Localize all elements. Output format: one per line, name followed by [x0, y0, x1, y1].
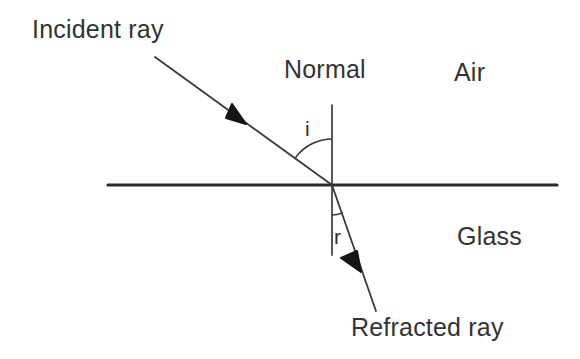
air-medium-label: Air	[454, 60, 485, 85]
incident-ray-arrowhead	[226, 104, 246, 124]
angle-of-incidence-label: i	[305, 118, 310, 139]
normal-label: Normal	[284, 57, 366, 82]
angle-of-refraction-label: r	[334, 226, 341, 247]
glass-medium-label: Glass	[457, 224, 522, 249]
angle-of-incidence-arc	[296, 139, 332, 157]
refraction-diagram: Incident ray Normal Air Glass Refracted …	[0, 0, 580, 359]
refracted-ray-label: Refracted ray	[351, 315, 504, 340]
angle-of-refraction-arc	[332, 213, 342, 215]
refraction-diagram-canvas	[0, 0, 580, 359]
incident-ray-label: Incident ray	[32, 17, 164, 42]
refracted-ray-line	[332, 185, 376, 311]
refracted-ray-arrowhead	[341, 251, 361, 272]
